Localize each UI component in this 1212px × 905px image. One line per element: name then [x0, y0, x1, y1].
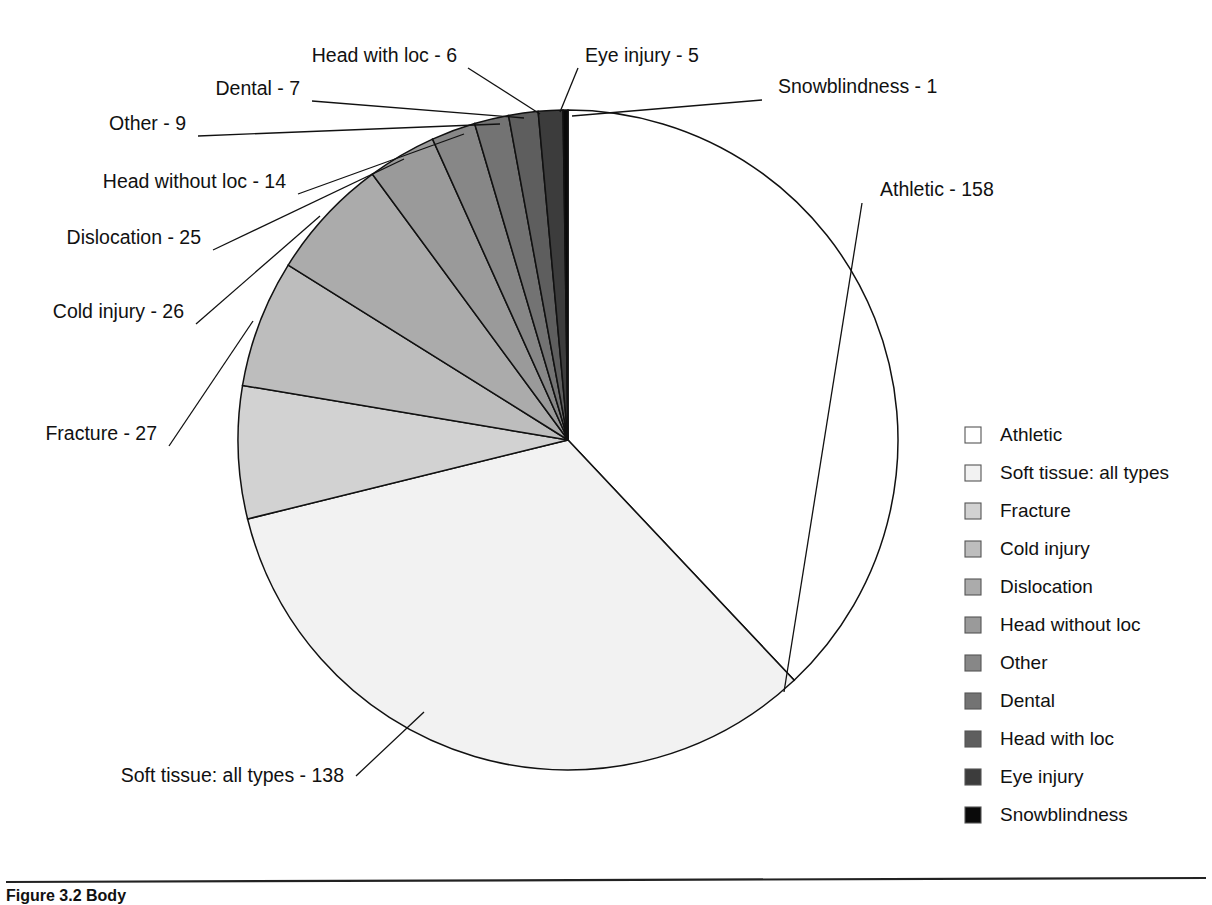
legend-swatch — [965, 427, 981, 443]
figure-caption: Figure 3.2 Body — [6, 887, 126, 904]
legend-item-label[interactable]: Dislocation — [1000, 576, 1093, 597]
pie-slice-callout-label: Eye injury - 5 — [585, 44, 699, 66]
callout-leader-line — [312, 101, 524, 118]
callout-leader-line — [560, 68, 578, 112]
legend-swatch — [965, 503, 981, 519]
figure-container: Athletic - 158Snowblindness - 1Eye injur… — [0, 0, 1212, 905]
pie-chart: Athletic - 158Snowblindness - 1Eye injur… — [0, 0, 1212, 905]
legend-item-label[interactable]: Other — [1000, 652, 1048, 673]
pie-slice-callout-label: Dental - 7 — [215, 77, 300, 99]
legend-swatch — [965, 807, 981, 823]
pie-slice-callout-label: Head without loc - 14 — [103, 170, 286, 192]
legend-item-label[interactable]: Fracture — [1000, 500, 1071, 521]
callout-leader-line — [468, 68, 540, 114]
legend-item-label[interactable]: Dental — [1000, 690, 1055, 711]
pie-slice-callout-label: Head with loc - 6 — [312, 44, 457, 66]
pie-slice-callout-label: Soft tissue: all types - 138 — [121, 764, 344, 786]
figure-divider-rule — [6, 878, 1206, 882]
callout-leader-line — [572, 100, 762, 116]
legend-item-label[interactable]: Snowblindness — [1000, 804, 1128, 825]
pie-slices-group — [238, 110, 898, 770]
legend-swatch — [965, 541, 981, 557]
pie-slice-callout-label: Cold injury - 26 — [53, 300, 184, 322]
legend-item-label[interactable]: Cold injury — [1000, 538, 1090, 559]
legend-item-label[interactable]: Head without loc — [1000, 614, 1140, 635]
callout-leader-line — [356, 712, 424, 776]
legend-item-label[interactable]: Head with loc — [1000, 728, 1114, 749]
legend-swatch — [965, 769, 981, 785]
legend-item-label[interactable]: Athletic — [1000, 424, 1062, 445]
legend-swatch — [965, 731, 981, 747]
pie-slice-callout-label: Dislocation - 25 — [67, 226, 202, 248]
pie-slice-callout-label: Athletic - 158 — [880, 178, 994, 200]
legend-swatch — [965, 617, 981, 633]
legend-swatch — [965, 465, 981, 481]
legend-swatch — [965, 579, 981, 595]
pie-slice-callout-label: Snowblindness - 1 — [778, 75, 937, 97]
legend-swatch — [965, 693, 981, 709]
legend-item-label[interactable]: Soft tissue: all types — [1000, 462, 1169, 483]
legend-item-label[interactable]: Eye injury — [1000, 766, 1084, 787]
pie-slice-callout-label: Fracture - 27 — [45, 422, 157, 444]
pie-slice-callout-label: Other - 9 — [109, 112, 186, 134]
legend-group: AthleticSoft tissue: all typesFractureCo… — [965, 424, 1169, 825]
legend-swatch — [965, 655, 981, 671]
